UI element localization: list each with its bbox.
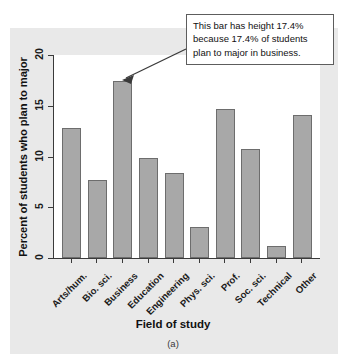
bar[interactable] bbox=[267, 246, 286, 258]
bar-slot bbox=[110, 55, 136, 258]
bar[interactable] bbox=[241, 149, 260, 258]
y-axis-title-text: Percent of students who plan to major bbox=[17, 57, 29, 257]
bar-slot bbox=[85, 55, 111, 258]
plot-area bbox=[53, 55, 320, 259]
bar-slot bbox=[136, 55, 162, 258]
bar-slot bbox=[187, 55, 213, 258]
y-axis-tick-label: 5 bbox=[33, 196, 45, 216]
x-axis-tick-label: Arts/hum. bbox=[49, 270, 88, 309]
annotation-line-2: because 17.4% of students bbox=[193, 32, 328, 45]
y-axis-tick-label: 15 bbox=[33, 95, 45, 115]
figure-caption: (a) bbox=[0, 338, 346, 349]
bar-slot bbox=[289, 55, 315, 258]
annotation-line-3: plan to major in business. bbox=[193, 46, 328, 59]
bar[interactable] bbox=[88, 180, 107, 258]
bar[interactable] bbox=[113, 81, 132, 258]
bar[interactable] bbox=[190, 227, 209, 258]
bar-slot bbox=[264, 55, 290, 258]
x-axis-tick-label: Other bbox=[293, 270, 319, 296]
bar[interactable] bbox=[139, 158, 158, 258]
y-axis-tick-label: 10 bbox=[33, 146, 45, 166]
bar[interactable] bbox=[62, 128, 81, 258]
y-axis-title: Percent of students who plan to major bbox=[14, 55, 32, 258]
bar[interactable] bbox=[293, 115, 312, 258]
x-axis-title: Field of study bbox=[0, 318, 346, 330]
bar[interactable] bbox=[216, 109, 235, 258]
bar-series bbox=[54, 55, 320, 258]
figure-container: Percent of students who plan to major 05… bbox=[0, 0, 346, 362]
y-axis-tick-label: 20 bbox=[33, 44, 45, 64]
annotation-callout: This bar has height 17.4% because 17.4% … bbox=[186, 14, 334, 65]
bar-slot bbox=[213, 55, 239, 258]
bar-slot bbox=[59, 55, 85, 258]
bar[interactable] bbox=[165, 173, 184, 258]
annotation-line-1: This bar has height 17.4% bbox=[193, 19, 328, 32]
bar-slot bbox=[238, 55, 264, 258]
bar-slot bbox=[161, 55, 187, 258]
y-axis-tick-label: 0 bbox=[33, 247, 45, 267]
x-axis-tick-labels: Arts/hum.Bio. sci.BusinessEducationEngin… bbox=[53, 262, 319, 318]
